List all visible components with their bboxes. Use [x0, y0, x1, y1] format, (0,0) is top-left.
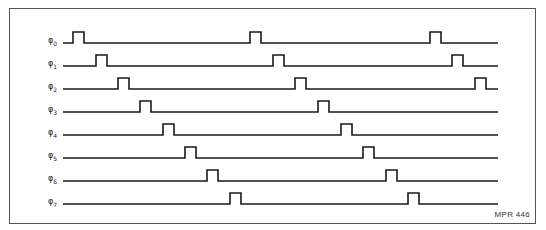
- signal-label-phi5: φ5: [48, 151, 57, 162]
- waveform-phi1: [63, 55, 498, 66]
- waveform-phi0: [63, 32, 498, 43]
- signal-label-phi4: φ4: [48, 128, 57, 139]
- waveform-phi2: [63, 78, 498, 89]
- waveform-phi5: [63, 147, 498, 158]
- signal-label-phi2: φ2: [48, 82, 57, 93]
- signal-label-phi3: φ3: [48, 105, 57, 116]
- signal-label-phi0: φ0: [48, 36, 57, 47]
- signal-label-phi6: φ6: [48, 174, 57, 185]
- figure-id-label: MPR 446: [495, 210, 530, 219]
- waveform-phi7: [63, 193, 498, 204]
- waveform-phi6: [63, 170, 498, 181]
- signal-label-phi7: φ7: [48, 197, 57, 208]
- timing-waveforms: [0, 0, 546, 230]
- signal-label-phi1: φ1: [48, 59, 57, 70]
- waveform-phi4: [63, 124, 498, 135]
- waveform-phi3: [63, 101, 498, 112]
